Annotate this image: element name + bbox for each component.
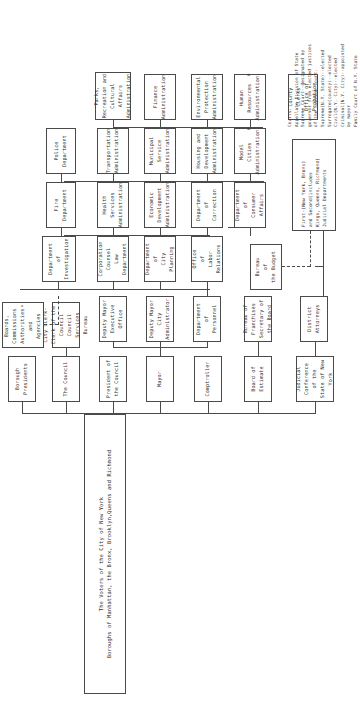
connector-judicial-to-district-attorneys: [315, 342, 316, 356]
node-housing-and-development-administration[interactable]: Housing and Development Administration: [191, 128, 223, 174]
org-chart-page: The Voters of the City of New York Borou…: [0, 0, 360, 704]
node-environmental-protection-administration[interactable]: Environmental Protection Administration: [191, 74, 223, 120]
node-president-of-the-council[interactable]: President of the Council: [99, 356, 127, 402]
node-boards-commissions[interactable]: Boards, Commissions Authorities and Agen…: [2, 302, 44, 348]
connector-root-vertical-bus: [22, 413, 316, 414]
connector-admin-stub-parks: [113, 120, 114, 128]
connector-courts-h: [323, 230, 324, 296]
connector-mayor-to-deputy-exec: [113, 342, 114, 348]
connector-admin-bus-c: [113, 127, 263, 128]
node-judicial-conference[interactable]: Judicial Conference of the State of New …: [296, 356, 334, 402]
connector-courts-v: [315, 266, 323, 267]
connector-admin-stub-correction: [207, 228, 208, 236]
node-department-of-correction[interactable]: Department of Correction: [191, 182, 223, 228]
connector-admin-bus-a: [64, 235, 210, 236]
node-first-second-judicial-departments[interactable]: First-(New York, Bronx) and Second(inclu…: [292, 139, 336, 231]
node-mayor[interactable]: Mayor: [146, 356, 174, 402]
connector-admin-stub-environmental: [207, 120, 208, 128]
connector-personnel-to-budget: [207, 290, 208, 296]
node-fire-department[interactable]: Fire Department: [46, 182, 76, 228]
node-human-resources-footnote: b: [247, 74, 253, 76]
connector-consumer-affairs-h: [250, 228, 251, 236]
node-police-department[interactable]: Police Department: [46, 128, 76, 174]
connector-admin-stub-housing: [207, 174, 208, 182]
connector-budget-dashed-v: [282, 266, 310, 267]
connector-boards-dashed-v: [44, 324, 58, 325]
node-department-of-investigation[interactable]: Department of Investigation: [42, 236, 76, 282]
connector-agency-stub-cityplanning: [160, 282, 161, 290]
connector-agency-stub-corpcounsel: [113, 282, 114, 290]
connector-boards-dashed-h: [58, 296, 59, 325]
node-comptroller[interactable]: Comptroller: [194, 356, 222, 402]
node-health-services-administration[interactable]: Health Services Administration: [97, 182, 129, 228]
connector-agency-stub-laborrelations: [207, 282, 208, 290]
node-human-resources-label: Human Resources Administration: [238, 76, 262, 121]
node-the-council[interactable]: The Council: [52, 356, 80, 402]
connector-admin-stub-transportation: [113, 174, 114, 182]
node-office-of-labor-relations[interactable]: Office of Labor Relations: [191, 236, 223, 282]
connector-admin-stub-health: [113, 228, 114, 236]
connector-mayor-out: [160, 348, 161, 356]
connector-admin-bus-b: [64, 181, 264, 182]
connector-admin-stub-finance: [160, 120, 161, 128]
node-board-of-estimate[interactable]: Board of Estimate: [244, 356, 272, 402]
node-bureau-of-franchises[interactable]: Bureau of Franchises Secretary of the Bo…: [244, 296, 272, 342]
node-economic-development-administration[interactable]: Economic Development Administration: [144, 182, 176, 228]
node-voters[interactable]: The Voters of the City of New York Borou…: [84, 414, 126, 694]
node-boards-commissions-label: Boards, Commissions Authorities and Agen…: [3, 307, 42, 345]
connector-admin-stub-modelcities: [250, 174, 251, 182]
node-deputy-mayor-city-administrator[interactable]: Deputy Mayor City Administrator: [146, 296, 174, 342]
node-model-cities-label: Model Cities Administration: [238, 130, 262, 175]
connector-admin-stub-economic: [160, 228, 161, 236]
node-municipal-service-administration[interactable]: Municipal Service Administration: [144, 128, 176, 174]
node-human-resources-administration[interactable]: Human Resources Administrationb: [234, 74, 266, 120]
node-deputy-mayor-executive-office[interactable]: Deputy Mayor Executive Office: [99, 296, 127, 342]
connector-agencies-bus-1: [20, 289, 210, 290]
connector-admin-stub-police: [61, 174, 62, 182]
node-department-of-city-planning[interactable]: Department of City Planning: [144, 236, 176, 282]
node-department-of-personnel[interactable]: Department of Personnel: [193, 296, 221, 342]
node-borough-presidents[interactable]: Borough Presidents: [8, 356, 36, 402]
connector-admin-stub-fire: [61, 228, 62, 236]
connector-board-estimate-to-franchises: [258, 342, 259, 356]
node-finance-administration[interactable]: Finance Administration: [144, 74, 176, 120]
org-chart-canvas: The Voters of the City of New York Borou…: [0, 0, 360, 704]
node-bureau-of-the-budget[interactable]: Bureau of the Budget: [250, 244, 282, 290]
node-transportation-administration[interactable]: Transportation Administration: [97, 128, 129, 174]
node-corporation-counsel[interactable]: Corporation Counsel Law Department: [97, 236, 129, 282]
connector-mayor-to-personnel: [207, 342, 208, 348]
note-courts: Courts: Appellate Division of State Supr…: [286, 8, 356, 130]
connector-agency-stub-investigation: [58, 282, 59, 290]
node-boards-commissions-footnote: a: [20, 305, 26, 307]
node-model-cities-administration[interactable]: Model Cities Administrationb: [234, 128, 266, 174]
node-district-attorneys[interactable]: District Attorneys: [300, 296, 328, 342]
connector-mayor-to-deputy-city: [160, 342, 161, 348]
node-city-clerk[interactable]: City Clerk-Clerk of the Council Council …: [52, 302, 80, 348]
connector-budget-dashed-h: [310, 231, 311, 267]
node-parks-recreation-cultural-affairs-administration[interactable]: Parks, Recreation and Cultural Affairs A…: [95, 72, 131, 120]
connector-admin-stub-municipal: [160, 174, 161, 182]
node-department-of-consumer-affairs[interactable]: Department of Consumer Affairs: [234, 182, 266, 228]
connector-admin-stub-humanresources: [250, 120, 251, 128]
connector-council-to-cityclerk: [66, 348, 67, 356]
